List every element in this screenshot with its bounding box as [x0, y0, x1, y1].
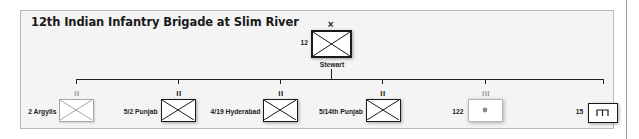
infantry-cross-icon — [264, 100, 296, 120]
unit-echelon-marker: II — [169, 90, 189, 98]
unit-infantry-symbol — [59, 99, 94, 122]
unit-artillery-symbol — [468, 99, 503, 122]
unit-echelon-marker: II — [373, 90, 393, 98]
infantry-cross-icon — [367, 100, 399, 120]
infantry-cross-icon — [313, 32, 350, 56]
page-side-rule — [626, 0, 627, 139]
connector-drop-5 — [485, 79, 486, 84]
unit-echelon-marker: II — [271, 90, 291, 98]
hq-infantry-symbol — [311, 30, 352, 58]
infantry-cross-icon — [162, 100, 194, 120]
unit-infantry-symbol — [263, 99, 298, 122]
unit-echelon-marker: II — [67, 90, 87, 98]
hq-echelon-marker: × — [321, 21, 341, 29]
hq-designation: 12 — [288, 38, 308, 47]
hq-connector — [331, 69, 332, 79]
unit-engineer-symbol — [588, 103, 618, 123]
infantry-cross-icon — [60, 100, 92, 120]
unit-echelon-marker: III — [476, 90, 496, 98]
horizontal-connector — [76, 79, 604, 80]
connector-drop-3 — [280, 79, 281, 84]
unit-label: 15 — [575, 107, 583, 116]
unit-label: 5/14th Punjab — [319, 107, 363, 116]
hq-commander: Stewart — [316, 60, 348, 69]
unit-label: 2 Argylls — [28, 107, 56, 116]
connector-drop-4 — [382, 79, 383, 84]
unit-label: 4/19 Hyderabad — [210, 107, 260, 116]
unit-infantry-symbol — [366, 99, 401, 122]
connector-drop-1 — [76, 79, 77, 84]
unit-label: 5/2 Punjab — [124, 107, 158, 116]
unit-infantry-symbol — [161, 99, 196, 122]
diagram-title: 12th Indian Infantry Brigade at Slim Riv… — [31, 15, 299, 29]
unit-label: 122 — [453, 107, 464, 116]
connector-drop-2 — [178, 79, 179, 84]
artillery-dot-icon — [469, 100, 501, 120]
connector-drop-6 — [603, 79, 604, 84]
engineer-bridge-icon — [589, 104, 616, 121]
